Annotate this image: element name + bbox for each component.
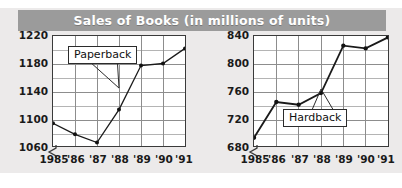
- x-tick-label: '86: [268, 153, 286, 165]
- y-tick-label: 1220: [19, 29, 48, 41]
- chart-paperback: 1060 1100 1140 1180 1220: [8, 33, 194, 173]
- x-tick-label: '90: [357, 153, 375, 165]
- figure-root: Sales of Books (in millions of units) 10…: [0, 0, 402, 188]
- y-tick-label: 760: [227, 85, 249, 97]
- data-point: [274, 100, 278, 104]
- data-point: [319, 91, 323, 95]
- data-point: [341, 43, 345, 47]
- x-tick-label: '91: [377, 153, 395, 165]
- chart-title-banner: Sales of Books (in millions of units): [18, 10, 386, 31]
- x-tick-label: '89: [335, 153, 353, 165]
- chart-hardback: 680 720 760 800 840: [205, 33, 395, 173]
- x-tick-label: '90: [155, 153, 173, 165]
- plot-area-hardback: [253, 35, 389, 147]
- x-axis-labels-paperback: 1985 '86 '87 '88 '89 '90 '91: [52, 153, 186, 169]
- x-tick-label: 1985: [39, 153, 68, 165]
- data-point: [363, 46, 367, 50]
- data-point: [296, 103, 300, 107]
- data-point: [73, 132, 77, 136]
- callout-hardback: Hardback: [283, 109, 347, 127]
- data-point: [139, 64, 143, 68]
- x-tick-label: '87: [291, 153, 309, 165]
- y-tick-label: 680: [227, 141, 249, 153]
- y-tick-label: 720: [227, 113, 249, 125]
- data-point: [161, 62, 165, 66]
- y-tick-label: 1140: [19, 85, 48, 97]
- y-axis-labels-hardback: 680 720 760 800 840: [205, 35, 249, 147]
- y-tick-label: 840: [227, 29, 249, 41]
- series-line-hardback: [254, 36, 388, 146]
- y-axis-labels-paperback: 1060 1100 1140 1180 1220: [8, 35, 48, 147]
- x-tick-label: '86: [67, 153, 85, 165]
- x-tick-label: 1985: [240, 153, 269, 165]
- x-tick-label: '91: [175, 153, 193, 165]
- y-tick-label: 1060: [19, 141, 48, 153]
- data-point: [95, 141, 99, 145]
- data-point: [117, 108, 121, 112]
- callout-paperback: Paperback: [68, 46, 137, 64]
- x-tick-label: '88: [111, 153, 129, 165]
- page-title: Sales of Books (in millions of units): [74, 13, 331, 28]
- x-tick-label: '87: [89, 153, 107, 165]
- x-tick-label: '89: [133, 153, 151, 165]
- x-axis-labels-hardback: 1985 '86 '87 '88 '89 '90 '91: [253, 153, 389, 169]
- x-tick-label: '88: [313, 153, 331, 165]
- y-tick-label: 1100: [19, 113, 48, 125]
- y-tick-label: 800: [227, 57, 249, 69]
- y-tick-label: 1180: [19, 57, 48, 69]
